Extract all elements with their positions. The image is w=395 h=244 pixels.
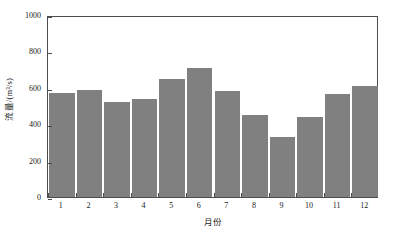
- bars-layer: [48, 17, 377, 197]
- x-axis-tick-mark: [103, 193, 104, 197]
- x-axis-tick-label: 7: [224, 202, 228, 210]
- y-axis-title-text: 流量/(m³/s): [5, 78, 14, 121]
- bar: [131, 99, 159, 197]
- x-axis-tick-label: 6: [197, 202, 201, 210]
- bar: [296, 117, 324, 197]
- bar: [241, 115, 269, 197]
- y-axis-tick-label: 400: [29, 121, 41, 129]
- x-axis-title-text: 月份: [204, 217, 222, 227]
- y-axis-tick-labels: 02004006008001000: [14, 0, 44, 210]
- bar: [214, 91, 242, 197]
- x-axis-tick-label: 4: [142, 202, 146, 210]
- x-axis-tick-mark: [324, 193, 325, 197]
- y-axis-tick-mark: [48, 53, 52, 54]
- y-axis-tick-label: 200: [29, 158, 41, 166]
- plot-area: [47, 16, 378, 198]
- x-axis-tick-label: 2: [86, 202, 90, 210]
- x-axis-tick-mark: [296, 193, 297, 197]
- bar: [269, 137, 297, 197]
- x-axis-tick-label: 3: [114, 202, 118, 210]
- x-axis-tick-label: 10: [305, 202, 313, 210]
- y-axis-tick-mark: [48, 163, 52, 164]
- bar: [103, 102, 131, 197]
- x-axis-tick-label: 11: [333, 202, 341, 210]
- bar: [324, 94, 352, 197]
- x-axis-tick-mark: [131, 193, 132, 197]
- bar: [76, 90, 104, 197]
- y-axis-tick-mark: [48, 126, 52, 127]
- x-axis-tick-label: 9: [279, 202, 283, 210]
- y-axis-tick-label: 600: [29, 85, 41, 93]
- bar: [158, 79, 186, 197]
- bar-chart: 流量/(m³/s) 02004006008001000 123456789101…: [0, 0, 395, 244]
- x-axis-tick-labels: 123456789101112: [47, 202, 378, 216]
- y-axis-tick-mark: [48, 199, 52, 200]
- y-axis-tick-label: 0: [37, 194, 41, 202]
- bar: [186, 68, 214, 197]
- bar: [48, 93, 76, 197]
- x-axis-tick-label: 12: [360, 202, 368, 210]
- x-axis-tick-label: 1: [59, 202, 63, 210]
- y-axis-tick-mark: [48, 17, 52, 18]
- x-axis-tick-mark: [351, 193, 352, 197]
- x-axis-tick-label: 8: [252, 202, 256, 210]
- x-axis-tick-mark: [186, 193, 187, 197]
- x-axis-tick-mark: [48, 193, 49, 197]
- y-axis-tick-mark: [48, 90, 52, 91]
- bar: [351, 86, 379, 197]
- x-axis-tick-mark: [241, 193, 242, 197]
- x-axis-tick-mark: [158, 193, 159, 197]
- y-axis-tick-label: 1000: [25, 12, 41, 20]
- x-axis-tick-mark: [214, 193, 215, 197]
- y-axis-tick-label: 800: [29, 48, 41, 56]
- x-axis-tick-mark: [76, 193, 77, 197]
- x-axis-tick-mark: [269, 193, 270, 197]
- x-axis-tick-label: 5: [169, 202, 173, 210]
- x-axis-title: 月份: [47, 218, 378, 227]
